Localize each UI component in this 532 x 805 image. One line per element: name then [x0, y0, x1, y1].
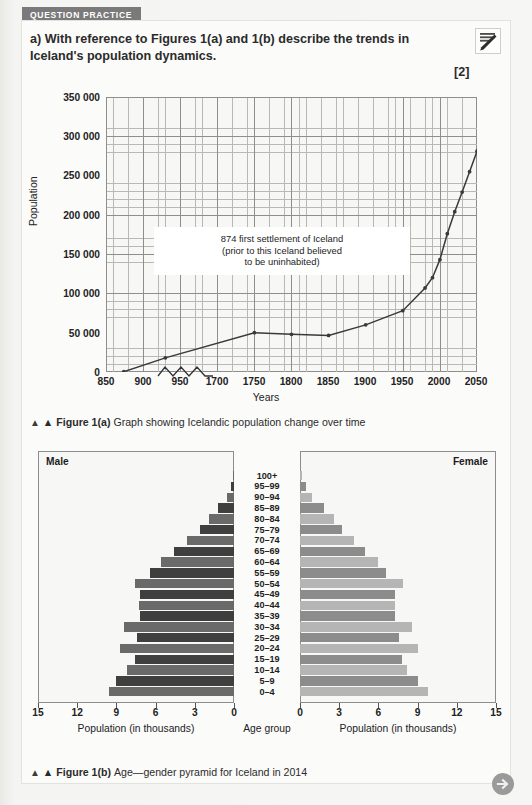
male-tick-mark [38, 703, 39, 708]
age-group-label: 95–99 [234, 482, 300, 491]
question-body: With reference to Figures 1(a) and 1(b) … [30, 32, 409, 63]
male-tick-mark [234, 703, 235, 708]
male-bar-65-69 [174, 547, 234, 556]
female-bar-30-34 [300, 622, 412, 631]
figure-1b-caption-text: Age—gender pyramid for Iceland in 2014 [114, 766, 307, 778]
male-x-tick-15: 15 [25, 707, 51, 718]
female-bar-5-9 [300, 676, 418, 685]
female-axis-label: Population (in thousands) [300, 723, 496, 734]
male-bar-60-64 [161, 557, 234, 566]
age-group-label: 30–34 [234, 623, 300, 632]
age-group-label: 50–54 [234, 580, 300, 589]
female-bar-50-54 [300, 579, 403, 588]
age-group-label: 60–64 [234, 558, 300, 567]
question-text-block: a) With reference to Figures 1(a) and 1(… [30, 31, 450, 65]
female-bar-20-24 [300, 644, 418, 653]
female-bar-10-14 [300, 665, 407, 674]
female-x-tick-9: 9 [405, 707, 431, 718]
female-x-tick-12: 12 [444, 707, 470, 718]
male-bar-55-59 [150, 568, 234, 577]
marks-badge: [2] [454, 65, 469, 79]
female-tick-mark [378, 703, 379, 708]
female-bar-70-74 [300, 536, 354, 545]
question-card: a) With reference to Figures 1(a) and 1(… [22, 21, 510, 783]
male-x-tick-12: 12 [64, 707, 90, 718]
male-bar-45-49 [140, 590, 234, 599]
figure-1a: Population 350 000 300 000 250 000 200 0… [30, 91, 502, 411]
figure-1b-caption-label: ▲ Figure 1(b) [43, 766, 111, 778]
y-tick-50000: 50 000 [38, 328, 100, 339]
female-x-tick-6: 6 [365, 707, 391, 718]
female-x-tick-15: 15 [483, 707, 509, 718]
female-tick-mark [339, 703, 340, 708]
female-bar-80-84 [300, 514, 334, 523]
male-tick-mark [195, 703, 196, 708]
population-pyramid: Male 100+95–9990–9485–8980–8475–7970–746… [38, 451, 496, 703]
male-x-tick-9: 9 [103, 707, 129, 718]
age-group-label: 35–39 [234, 612, 300, 621]
female-bar-0-4 [300, 687, 428, 696]
male-bar-75-79 [200, 525, 234, 534]
female-tick-mark [300, 703, 301, 708]
male-bar-80-84 [209, 514, 234, 523]
age-group-label: 55–59 [234, 569, 300, 578]
age-group-label: 40–44 [234, 601, 300, 610]
age-group-label: 100+ [234, 472, 300, 481]
female-bar-60-64 [300, 557, 378, 566]
question-lead: a) [30, 32, 41, 46]
pencil-write-icon[interactable] [474, 27, 502, 55]
female-x-tick-3: 3 [326, 707, 352, 718]
female-bar-95-99 [300, 482, 306, 491]
male-label: Male [46, 456, 69, 467]
male-axis-label: Population (in thousands) [38, 723, 234, 734]
age-group-label: 80–84 [234, 515, 300, 524]
page-root: QUESTION PRACTICE a) With reference to F… [0, 0, 532, 805]
annotation-line-1: 874 first settlement of Iceland [158, 233, 406, 245]
y-tick-200000: 200 000 [38, 210, 100, 221]
female-x-tick-0: 0 [287, 707, 313, 718]
x-tick-2050: 2050 [454, 376, 498, 387]
female-bar-35-39 [300, 611, 395, 620]
age-group-label: 5–9 [234, 677, 300, 686]
male-x-tick-0: 0 [221, 707, 247, 718]
age-group-label: 70–74 [234, 536, 300, 545]
age-group-label: 20–24 [234, 644, 300, 653]
female-tick-mark [457, 703, 458, 708]
male-bar-5-9 [116, 676, 234, 685]
age-group-label: 65–69 [234, 547, 300, 556]
male-bar-15-19 [135, 655, 234, 664]
chart-x-axis-label: Years [30, 391, 502, 403]
male-bar-20-24 [120, 644, 234, 653]
female-bar-15-19 [300, 655, 402, 664]
age-group-label: 10–14 [234, 666, 300, 675]
figure-1a-caption: ▲ ▲ Figure 1(a) Graph showing Icelandic … [30, 416, 365, 428]
female-bar-55-59 [300, 568, 386, 577]
female-bar-65-69 [300, 547, 365, 556]
male-x-tick-3: 3 [182, 707, 208, 718]
male-bar-40-44 [139, 601, 234, 610]
annotation-line-2: (prior to this Iceland believed [158, 245, 406, 257]
male-tick-mark [116, 703, 117, 708]
male-bar-10-14 [127, 665, 234, 674]
line-chart-plot-area: 874 first settlement of Iceland (prior t… [106, 97, 477, 372]
male-bar-35-39 [140, 611, 234, 620]
figure-1b-caption: ▲ ▲ Figure 1(b) Age—gender pyramid for I… [30, 766, 307, 778]
female-tick-mark [496, 703, 497, 708]
age-group-label: 90–94 [234, 493, 300, 502]
y-tick-300000: 300 000 [38, 131, 100, 142]
age-group-label: 75–79 [234, 526, 300, 535]
female-tick-mark [418, 703, 419, 708]
age-axis-label: Age group [234, 723, 300, 734]
age-group-label: 0–4 [234, 688, 300, 697]
age-group-column: 100+95–9990–9485–8980–8475–7970–7465–696… [234, 451, 300, 703]
male-tick-mark [77, 703, 78, 708]
male-tick-mark [156, 703, 157, 708]
age-group-label: 25–29 [234, 634, 300, 643]
figure-1a-caption-text: Graph showing Icelandic population chang… [113, 416, 365, 428]
female-bar-85-89 [300, 503, 324, 512]
arrow-right-circle-icon[interactable] [492, 773, 514, 795]
age-group-label: 85–89 [234, 504, 300, 513]
y-tick-150000: 150 000 [38, 249, 100, 260]
female-bar-75-79 [300, 525, 342, 534]
caption-triangle-icon: ▲ [30, 417, 40, 428]
